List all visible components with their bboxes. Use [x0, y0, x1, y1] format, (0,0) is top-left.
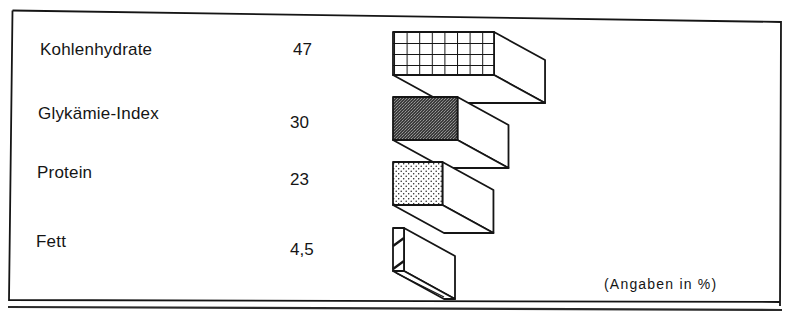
bar-front-face [393, 97, 458, 140]
value-label: 4,5 [290, 240, 314, 260]
category-label: Fett [36, 232, 66, 252]
category-label: Glykämie-Index [38, 104, 159, 124]
value-label: 47 [293, 40, 312, 60]
value-label: 23 [290, 170, 309, 190]
category-label: Protein [37, 163, 92, 183]
bar-front-face [393, 32, 494, 75]
bars [393, 32, 545, 299]
category-label: Kohlenhydrate [40, 40, 152, 60]
bar-front-face [393, 162, 442, 205]
unit-note: (Angaben in %) [604, 276, 717, 292]
bar-glyk-mie-index [393, 97, 509, 168]
bar-protein [393, 162, 493, 233]
bar-kohlenhydrate [393, 32, 545, 103]
value-label: 30 [290, 113, 309, 133]
bar-fett [393, 228, 455, 299]
